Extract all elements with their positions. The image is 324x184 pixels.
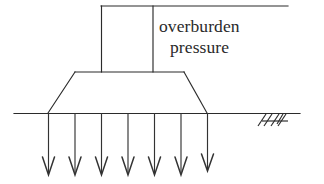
pressure-arrow — [175, 113, 187, 175]
pressure-arrow — [43, 113, 55, 175]
overburden-label-line1: overburden — [159, 16, 240, 37]
footing-left-slope — [48, 72, 75, 113]
pressure-arrow — [202, 113, 214, 171]
pressure-arrow — [149, 113, 161, 175]
pressure-arrow — [96, 113, 108, 175]
footing-right-slope — [184, 72, 207, 113]
pressure-arrow — [122, 113, 134, 175]
overburden-label-line2: pressure — [170, 37, 229, 58]
soil-hatch-icon — [258, 114, 288, 126]
pressure-arrow — [69, 113, 81, 175]
overburden-pressure-diagram: overburden pressure — [0, 0, 324, 184]
